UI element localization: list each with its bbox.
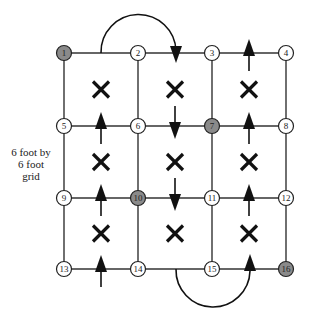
arrow-up-icon [243,184,255,216]
arrowhead-up-icon [243,39,255,56]
arrow-up-icon [243,39,255,71]
node-10: 10 [131,191,146,206]
node-label: 7 [210,121,215,131]
node-4: 4 [279,46,294,61]
arrow-up-icon [95,112,107,144]
node-2: 2 [131,46,146,61]
turn-arc-bottom [176,254,256,307]
node-label: 5 [62,121,67,131]
x-mark-icon [93,82,109,98]
grid-size-label-line-1: 6 foot by [2,146,60,158]
node-label: 8 [284,121,289,131]
arrowhead-down-icon [169,122,181,139]
x-mark-icon [241,226,257,242]
arrow-down-icon [169,178,181,211]
arrowhead-up-icon [95,255,107,272]
node-label: 1 [62,48,67,58]
grid-size-label-line-3: grid [2,170,60,182]
node-6: 6 [131,119,146,134]
node-label: 16 [282,264,292,274]
node-label: 12 [282,193,291,203]
node-label: 11 [208,193,217,203]
node-15: 15 [205,262,220,277]
x-mark-icon [93,154,109,170]
node-16: 16 [279,262,294,277]
grid-size-label: 6 foot by 6 foot grid [2,146,60,182]
x-mark-icon [241,82,257,98]
x-mark-icon [167,226,183,242]
arrowhead-down-icon [169,194,181,211]
arrowhead-up-icon [244,254,256,271]
arrowhead-up-icon [95,112,107,129]
arrowhead-down-icon [170,46,182,63]
node-3: 3 [205,46,220,61]
arrow-down-icon [169,106,181,139]
x-mark-icon [167,82,183,98]
node-label: 2 [136,48,141,58]
x-mark-icon [167,154,183,170]
arrow-up-icon [95,255,107,287]
node-1: 1 [57,46,72,61]
arrow-up-icon [243,112,255,144]
node-5: 5 [57,119,72,134]
arrowhead-up-icon [95,184,107,201]
x-mark-icon [241,154,257,170]
node-label: 6 [136,121,141,131]
node-label: 9 [62,193,67,203]
x-mark-icon [93,226,109,242]
grid-size-label-line-2: 6 foot [2,158,60,170]
node-label: 4 [284,48,289,58]
node-8: 8 [279,119,294,134]
node-9: 9 [57,191,72,206]
arrow-up-icon [95,184,107,216]
node-label: 3 [210,48,215,58]
arrowhead-up-icon [243,184,255,201]
node-7: 7 [205,119,220,134]
cell-marks [93,82,257,242]
node-label: 14 [134,264,144,274]
node-12: 12 [279,191,294,206]
node-label: 10 [134,193,144,203]
node-label: 15 [208,264,218,274]
node-label: 13 [60,264,70,274]
arrowhead-up-icon [243,112,255,129]
node-13: 13 [57,262,72,277]
node-14: 14 [131,262,146,277]
node-11: 11 [205,191,220,206]
